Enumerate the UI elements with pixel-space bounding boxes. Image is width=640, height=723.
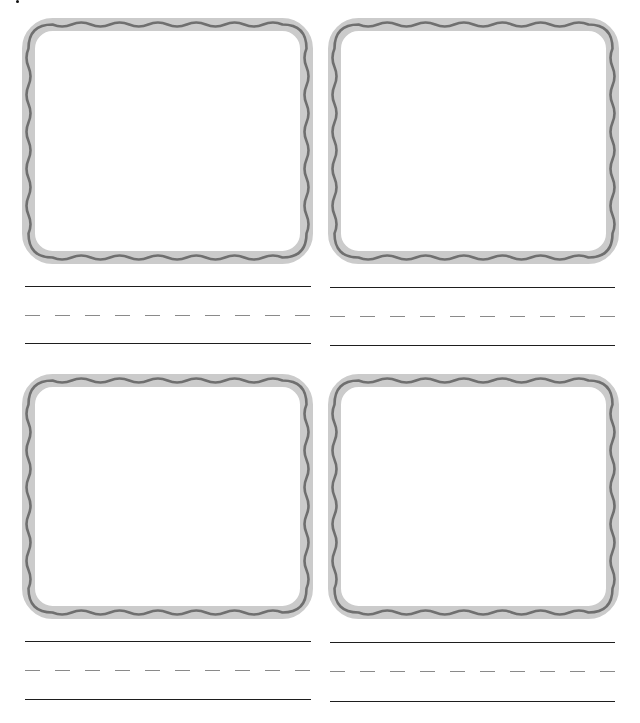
picture-drawing-area[interactable] [37, 389, 298, 604]
handwriting-midline[interactable] [25, 670, 311, 671]
picture-frame [22, 18, 313, 264]
picture-frame [22, 374, 313, 619]
handwriting-baseline[interactable] [25, 699, 311, 700]
handwriting-midline[interactable] [25, 315, 311, 316]
handwriting-top-line[interactable] [25, 286, 311, 287]
picture-frame [328, 18, 619, 264]
picture-drawing-area[interactable] [343, 389, 604, 604]
handwriting-baseline[interactable] [330, 345, 615, 346]
handwriting-top-line[interactable] [330, 287, 615, 288]
picture-drawing-area[interactable] [343, 33, 604, 249]
handwriting-midline[interactable] [330, 671, 615, 672]
handwriting-baseline[interactable] [25, 343, 311, 344]
handwriting-baseline[interactable] [330, 701, 615, 702]
handwriting-midline[interactable] [330, 316, 615, 317]
picture-drawing-area[interactable] [37, 33, 298, 249]
picture-frame [328, 374, 619, 619]
handwriting-top-line[interactable] [25, 641, 311, 642]
handwriting-top-line[interactable] [330, 642, 615, 643]
stray-mark [16, 0, 19, 3]
